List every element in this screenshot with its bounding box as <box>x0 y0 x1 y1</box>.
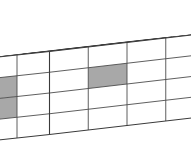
isometric-block-svg: Isometric rectangular block of unit cube… <box>0 0 191 158</box>
left-face <box>0 52 50 142</box>
right-face <box>50 34 192 135</box>
isometric-block-figure: Isometric rectangular block of unit cube… <box>0 0 191 158</box>
